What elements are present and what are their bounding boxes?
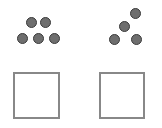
dot-right: [130, 8, 141, 19]
answer-box-right[interactable]: [99, 72, 145, 119]
dot-left: [17, 33, 28, 44]
answer-box-left[interactable]: [13, 72, 60, 119]
dot-right: [119, 21, 130, 32]
dot-left: [40, 17, 51, 28]
dot-left: [33, 33, 44, 44]
dot-right: [109, 34, 120, 45]
dot-right: [131, 34, 142, 45]
dot-left: [49, 33, 60, 44]
dot-left: [26, 17, 37, 28]
